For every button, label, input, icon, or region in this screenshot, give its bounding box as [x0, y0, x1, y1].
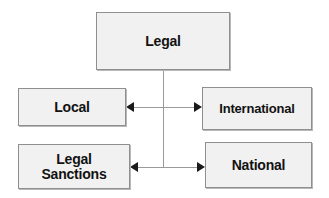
- node-legal-label: Legal: [145, 34, 181, 49]
- connector-legal-sanctions-segment: [134, 167, 164, 168]
- node-legal-sanctions-label: Legal Sanctions: [41, 152, 106, 182]
- connector-local-segment: [130, 107, 164, 108]
- node-legal[interactable]: Legal: [96, 12, 230, 70]
- node-local[interactable]: Local: [18, 88, 126, 126]
- connector-legal-trunk: [163, 70, 164, 168]
- node-international-label: International: [219, 102, 294, 116]
- node-national-label: National: [232, 158, 286, 173]
- arrowhead-right-icon-to-international: [194, 102, 202, 112]
- node-legal-sanctions[interactable]: Legal Sanctions: [18, 144, 130, 189]
- arrowhead-left-icon-to-local: [126, 102, 134, 112]
- node-international[interactable]: International: [202, 87, 312, 130]
- arrowhead-right-icon-to-national: [197, 162, 205, 172]
- node-local-label: Local: [54, 100, 90, 115]
- arrowhead-left-icon-to-legal-sanctions: [130, 162, 138, 172]
- connector-national-segment: [163, 167, 201, 168]
- node-national[interactable]: National: [205, 142, 312, 188]
- legal-hierarchy-diagram: Legal Local International Legal Sanction…: [0, 0, 329, 198]
